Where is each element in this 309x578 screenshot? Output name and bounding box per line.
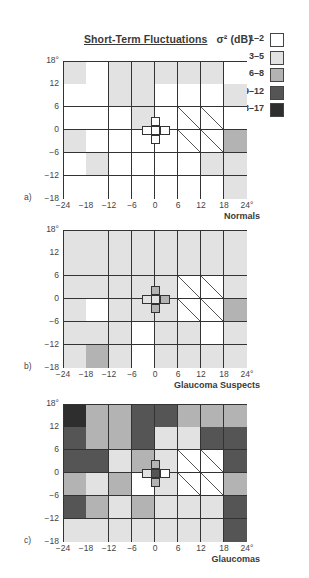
heatmap-cell (178, 345, 201, 368)
heatmap-cell (109, 496, 132, 519)
y-tick-label: 18° (35, 398, 59, 408)
group-title: Glaucoma Suspects (174, 380, 260, 390)
x-tick-label: −6 (120, 369, 144, 379)
heatmap-cell (224, 153, 247, 176)
heatmap-cell (155, 345, 178, 368)
legend-swatch (270, 68, 284, 82)
x-tick-label: −12 (97, 369, 121, 379)
heatmap-cell (132, 496, 155, 519)
heatmap-cell (86, 322, 109, 345)
heatmap-cell (155, 153, 178, 176)
heatmap-cell (224, 427, 247, 450)
heatmap-cell (224, 299, 247, 322)
heatmap-cell (132, 322, 155, 345)
heatmap-cell (86, 84, 109, 107)
panel-label: b) (24, 361, 32, 371)
heatmap-cell (155, 519, 178, 542)
y-tick-label: 12 (35, 78, 59, 88)
x-tick-label: 18 (212, 369, 236, 379)
y-tick-label: −6 (35, 147, 59, 157)
blind-spot-cell (178, 299, 201, 322)
x-tick-label: 12 (189, 200, 213, 210)
heatmap-cell (178, 496, 201, 519)
heatmap-cell (224, 345, 247, 368)
heatmap-cell (178, 253, 201, 276)
heatmap-cell (86, 450, 109, 473)
heatmap-cell (224, 176, 247, 199)
heatmap-cell (201, 153, 224, 176)
legend-label: 1–2 (218, 33, 264, 43)
x-tick-label: 0 (143, 369, 167, 379)
heatmap-cell (109, 473, 132, 496)
legend-swatch (270, 86, 284, 100)
heatmap-cell (109, 345, 132, 368)
heatmap-cell (201, 253, 224, 276)
blind-spot-cell (178, 130, 201, 153)
y-tick-label: 12 (35, 247, 59, 257)
heatmap-cell (155, 84, 178, 107)
heatmap-cell (178, 84, 201, 107)
heatmap-cell (86, 427, 109, 450)
group-title: Glaucomas (211, 554, 260, 564)
blind-spot-cell (201, 276, 224, 299)
heatmap-cell (178, 322, 201, 345)
blind-spot-cell (201, 299, 224, 322)
heatmap-cell (224, 253, 247, 276)
x-tick-label: 24° (235, 369, 259, 379)
heatmap-cell (132, 345, 155, 368)
x-tick-label: −24 (51, 543, 75, 553)
x-tick-label: 6 (166, 200, 190, 210)
x-tick-label: 24° (235, 543, 259, 553)
blind-spot-cell (201, 107, 224, 130)
heatmap-cell (224, 496, 247, 519)
y-tick-label: 0 (35, 124, 59, 134)
blind-spot-cell (201, 130, 224, 153)
heatmap-cell (86, 496, 109, 519)
heatmap-cell (155, 427, 178, 450)
x-tick-label: −24 (51, 369, 75, 379)
x-tick-label: 18 (212, 543, 236, 553)
panel-label: a) (24, 192, 32, 202)
legend-item: 13–17 (254, 103, 309, 117)
heatmap-cell (224, 519, 247, 542)
legend-item: 3–5 (254, 51, 309, 65)
legend-swatch (270, 51, 284, 65)
heatmap-cell (224, 107, 247, 130)
x-tick-label: −6 (120, 200, 144, 210)
y-tick-label: 0 (35, 293, 59, 303)
heatmap-cell (224, 473, 247, 496)
heatmap-cell (86, 253, 109, 276)
heatmap-cell (201, 496, 224, 519)
heatmap-cell (178, 519, 201, 542)
heatmap-cell (132, 84, 155, 107)
heatmap-cell (178, 427, 201, 450)
heatmap-cell (224, 276, 247, 299)
legend-swatch (270, 103, 284, 117)
heatmap-cell (109, 253, 132, 276)
blind-spot-cell (178, 450, 201, 473)
legend-swatch (270, 33, 284, 47)
heatmap-cell (178, 176, 201, 199)
blind-spot-cell (178, 473, 201, 496)
y-tick-label: −6 (35, 316, 59, 326)
heatmap-cell (86, 345, 109, 368)
x-tick-label: −12 (97, 543, 121, 553)
center-cross-bottom (151, 478, 160, 487)
heatmap-cell (86, 107, 109, 130)
center-cross-center (151, 469, 160, 478)
heatmap-cell (201, 322, 224, 345)
center-cross-right (160, 126, 170, 135)
heatmap-cell (132, 427, 155, 450)
x-tick-label: 12 (189, 543, 213, 553)
center-cross-right (160, 295, 170, 304)
center-cross-bottom (151, 135, 160, 144)
center-cross-top (151, 117, 160, 126)
center-cross-top (151, 286, 160, 295)
y-tick-label: 6 (35, 444, 59, 454)
heatmap-cell (109, 276, 132, 299)
heatmap-cell (201, 345, 224, 368)
y-tick-label: 6 (35, 270, 59, 280)
center-cross-right (160, 469, 170, 478)
x-tick-label: −18 (74, 200, 98, 210)
heatmap-cell (86, 519, 109, 542)
